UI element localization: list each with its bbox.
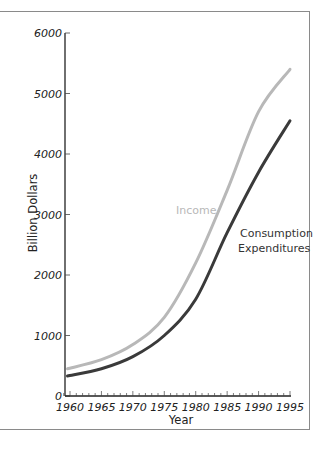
- x-axis-title: Year: [168, 413, 194, 427]
- y-axis-title: Billion Dollars: [26, 174, 40, 253]
- x-tick-label: 1995: [276, 401, 304, 414]
- x-axis: 19601965197019751980198519901995: [56, 391, 304, 414]
- x-tick-label: 1970: [119, 401, 147, 414]
- y-tick-label: 6000: [34, 27, 62, 40]
- series-lines: [67, 69, 290, 376]
- line-chart: 0100020003000400050006000 19601965197019…: [0, 0, 327, 459]
- x-tick-label: 1985: [213, 401, 241, 414]
- income-line: [67, 69, 290, 368]
- x-tick-label: 1960: [56, 401, 84, 414]
- consumption-series-label-line1: Consumption: [240, 227, 313, 240]
- y-tick-label: 2000: [34, 269, 62, 282]
- x-tick-label: 1965: [87, 401, 115, 414]
- x-tick-label: 1990: [245, 401, 273, 414]
- y-tick-label: 5000: [34, 88, 62, 101]
- income-series-label: Income: [176, 204, 217, 217]
- y-tick-label: 4000: [34, 148, 62, 161]
- consumption-series-label-line2: Expenditures: [238, 242, 311, 255]
- y-tick-label: 1000: [34, 330, 62, 343]
